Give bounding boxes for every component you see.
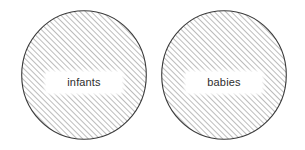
set-label-infants: infants xyxy=(46,72,122,93)
set-label-text-infants: infants xyxy=(67,77,100,88)
set-label-text-babies: babies xyxy=(207,77,240,88)
set-diagram: infants babies xyxy=(0,0,305,150)
set-circle-infants[interactable]: infants xyxy=(21,10,147,140)
set-label-babies: babies xyxy=(186,72,262,93)
set-circle-babies[interactable]: babies xyxy=(161,10,287,140)
